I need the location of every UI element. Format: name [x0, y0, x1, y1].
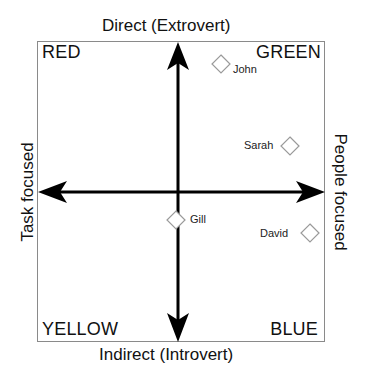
quadrant-blue: BLUE	[270, 319, 318, 340]
axis-label-right: People focused	[330, 133, 350, 250]
marker-gill-icon	[167, 211, 185, 229]
quadrant-red: RED	[42, 42, 81, 63]
person-label-sarah: Sarah	[244, 139, 273, 151]
axis-label-bottom: Indirect (Introvert)	[99, 345, 233, 365]
person-label-john: John	[233, 63, 257, 75]
axis-label-top: Direct (Extrovert)	[102, 16, 230, 36]
quadrant-yellow: YELLOW	[42, 319, 118, 340]
quadrant-green: GREEN	[256, 42, 321, 63]
marker-john-icon	[212, 55, 230, 73]
person-label-david: David	[260, 227, 288, 239]
marker-sarah-icon	[281, 137, 299, 155]
axis-label-left: Task focused	[18, 142, 38, 241]
person-label-gill: Gill	[190, 213, 206, 225]
marker-david-icon	[301, 224, 319, 242]
